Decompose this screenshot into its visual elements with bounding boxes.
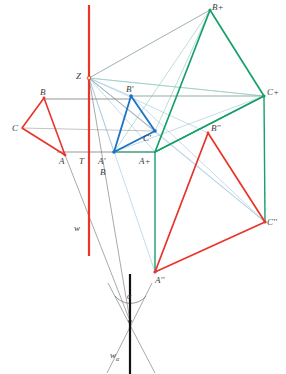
label-A-plus: A+ (139, 157, 151, 166)
rays-green-helper (89, 10, 264, 152)
dot-A-prime (112, 150, 116, 154)
vanish-A-apex (65, 155, 130, 321)
dot-Z (87, 76, 91, 80)
label-B-prime: B' (126, 85, 133, 94)
label-T: T (79, 157, 84, 166)
triangle-double-primed-red (155, 133, 265, 272)
triangle-original-outline (22, 98, 65, 155)
ray-Z-Adouble (89, 78, 155, 272)
geometry-canvas (0, 0, 286, 374)
triangle-double-outline (155, 133, 265, 272)
dot-C-prime (153, 129, 157, 133)
label-angle-alpha: α (127, 293, 131, 301)
label-C-prime: C' (143, 134, 151, 143)
label-C: C (12, 124, 18, 133)
triangle-primed-outline (114, 96, 155, 152)
ray-Z-Bdouble (89, 78, 208, 133)
label-b-trace: B (100, 168, 106, 177)
dot-A-double (153, 270, 156, 273)
dot-B-double (207, 132, 210, 135)
rays-crossing (114, 96, 265, 272)
label-C-double: C'' (267, 218, 277, 227)
triangle-primed-blue (114, 96, 155, 152)
label-w-alpha: wα (110, 351, 119, 362)
label-w-alpha-sub: α (116, 356, 119, 362)
gray-Z-Bplus (89, 10, 210, 78)
ray-Cprime-Cdouble (155, 131, 265, 222)
label-B-double: B'' (211, 124, 220, 133)
label-B-plus: B+ (212, 3, 224, 12)
edge-Aplus-Cplus (155, 96, 264, 152)
label-w: w (74, 224, 80, 233)
ray-Cprime-Bplus (155, 10, 210, 131)
label-B: B (40, 88, 46, 97)
label-Z: Z (76, 72, 81, 81)
label-C-plus: C+ (267, 88, 279, 97)
triangle-original-ABC (22, 98, 65, 155)
projector-Cplus-Cdouble (264, 96, 265, 222)
label-A-prime: A' (98, 157, 105, 166)
diagram-stage: Z B C A T A' B' C' A+ B+ C+ A'' B'' C'' … (0, 0, 286, 374)
ray-Z-Cplus-green (89, 78, 264, 96)
dot-B (43, 97, 46, 100)
dot-alpha-apex (128, 319, 131, 322)
label-A: A (59, 157, 65, 166)
label-A-double: A'' (155, 276, 164, 285)
dot-B-prime (129, 94, 133, 98)
dot-C-plus (262, 94, 265, 97)
vanish-T-apex (89, 78, 130, 321)
